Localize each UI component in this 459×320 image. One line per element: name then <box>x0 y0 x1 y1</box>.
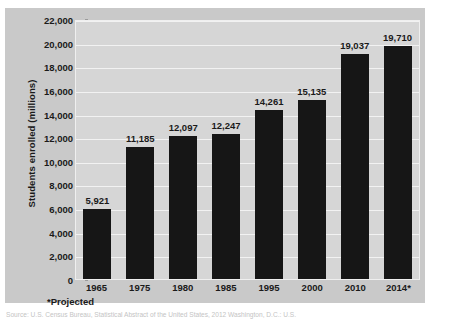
y-axis-tick-label: 2,000 <box>15 251 73 262</box>
bar-slot: 12,247 <box>205 21 248 279</box>
bar <box>126 147 154 279</box>
x-axis-tick-label: 1975 <box>118 282 161 296</box>
bar <box>255 110 283 279</box>
y-axis-tick-labels: 22,00020,00018,00016,00014,00012,00010,0… <box>15 20 73 280</box>
bar <box>83 209 111 279</box>
bar-slot: 19,710 <box>376 21 419 279</box>
bar <box>212 134 240 279</box>
bar-value-label: 11,185 <box>126 133 155 144</box>
y-axis-tick-label: 16,000 <box>15 85 73 96</box>
bar-value-label: 19,710 <box>383 32 412 43</box>
bar <box>298 100 326 279</box>
bar <box>384 46 412 279</box>
x-axis-tick-labels: 19651975198019851995200020102014* <box>75 282 420 296</box>
y-axis-tick-label: 20,000 <box>15 38 73 49</box>
bar-value-label: 12,097 <box>169 122 198 133</box>
x-axis-tick-label: 2014* <box>377 282 420 296</box>
y-axis-tick-label: 0 <box>15 275 73 286</box>
x-axis-tick-label: 2000 <box>291 282 334 296</box>
y-axis-tick-label: 8,000 <box>15 180 73 191</box>
bar-slot: 14,261 <box>248 21 291 279</box>
footnote-projected: *Projected <box>47 296 94 307</box>
x-axis-tick-label: 2010 <box>334 282 377 296</box>
y-axis-tick-label: 14,000 <box>15 109 73 120</box>
bar-value-label: 12,247 <box>212 120 241 131</box>
bar <box>169 136 197 279</box>
bar-value-label: 15,135 <box>297 86 326 97</box>
bar-slot: 15,135 <box>290 21 333 279</box>
bar-slot: 11,185 <box>119 21 162 279</box>
x-axis-tick-label: 1995 <box>248 282 291 296</box>
x-axis-tick-label: 1985 <box>204 282 247 296</box>
bar-series: 5,92111,18512,09712,24714,26115,13519,03… <box>76 21 419 279</box>
source-citation: Source: U.S. Census Bureau, Statistical … <box>6 311 456 319</box>
y-axis-tick-label: 22,000 <box>15 15 73 26</box>
chart-panel: Students enrolled (millions) 22,00020,00… <box>5 8 425 303</box>
y-axis-tick-label: 10,000 <box>15 156 73 167</box>
y-axis-tick-label: 4,000 <box>15 227 73 238</box>
x-axis-tick-label: 1980 <box>161 282 204 296</box>
x-axis-tick-label: 1965 <box>75 282 118 296</box>
y-axis-tick-label: 6,000 <box>15 204 73 215</box>
y-axis-tick-label: 18,000 <box>15 62 73 73</box>
bar <box>341 54 369 279</box>
bar-value-label: 14,261 <box>254 96 283 107</box>
bar-value-label: 19,037 <box>340 40 369 51</box>
bar-slot: 5,921 <box>76 21 119 279</box>
bar-slot: 19,037 <box>333 21 376 279</box>
y-axis-tick-label: 12,000 <box>15 133 73 144</box>
plot-area: 5,92111,18512,09712,24714,26115,13519,03… <box>75 20 420 280</box>
chart-screenshot: Students enrolled (millions) 22,00020,00… <box>0 0 459 320</box>
bar-slot: 12,097 <box>162 21 205 279</box>
bar-value-label: 5,921 <box>86 195 110 206</box>
